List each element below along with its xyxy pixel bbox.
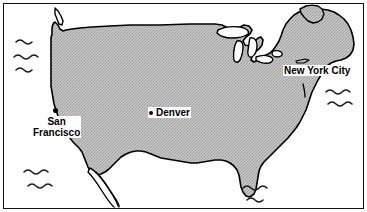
city-label-san-francisco-line1: San xyxy=(33,116,80,127)
us-mainland xyxy=(51,9,354,197)
city-label-san-francisco: San Francisco xyxy=(32,116,81,138)
us-map-figure: Denver San Francisco New York City xyxy=(0,0,367,212)
map-canvas xyxy=(0,0,367,212)
wave-group-pacific-north xyxy=(14,40,38,72)
city-marker-san-francisco xyxy=(53,108,58,113)
lake-huron xyxy=(248,38,257,57)
city-label-denver: Denver xyxy=(148,107,191,118)
lake-erie xyxy=(256,56,273,64)
lake-ontario xyxy=(272,51,282,57)
city-marker-denver xyxy=(149,111,153,115)
wave-group-atlantic-east xyxy=(326,90,352,106)
city-label-new-york-city: New York City xyxy=(283,65,351,76)
city-label-san-francisco-line2: Francisco xyxy=(33,127,80,138)
lake-superior xyxy=(217,27,249,38)
baja-california xyxy=(88,168,119,209)
wave-group-pacific-south xyxy=(24,170,52,188)
city-label-denver-text: Denver xyxy=(156,107,190,118)
